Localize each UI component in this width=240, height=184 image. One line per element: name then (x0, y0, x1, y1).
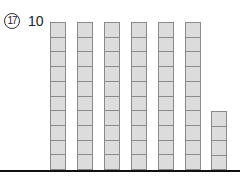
ten-rod (104, 22, 120, 170)
unit-cube (51, 141, 65, 156)
unit-cube (132, 155, 146, 169)
unit-cube (159, 97, 173, 112)
unit-cube (212, 156, 226, 170)
unit-cube (78, 141, 92, 156)
unit-cube (212, 112, 226, 127)
unit-cube (132, 111, 146, 126)
unit-cube (186, 67, 200, 82)
unit-cube (186, 38, 200, 53)
unit-cube (212, 127, 226, 142)
unit-cube (78, 23, 92, 38)
unit-cube (51, 155, 65, 169)
unit-cube (105, 82, 119, 97)
ten-rod (131, 22, 147, 170)
unit-cube (132, 67, 146, 82)
unit-cube (132, 141, 146, 156)
unit-cube (159, 111, 173, 126)
unit-cube (159, 126, 173, 141)
unit-cube (51, 52, 65, 67)
question-number-badge: 17 (4, 13, 20, 29)
unit-cube (51, 23, 65, 38)
unit-cube (105, 23, 119, 38)
unit-cube (105, 126, 119, 141)
unit-cube (186, 126, 200, 141)
unit-cube (78, 52, 92, 67)
unit-cube (51, 38, 65, 53)
unit-cube (159, 67, 173, 82)
unit-cube (78, 155, 92, 169)
unit-cube (186, 97, 200, 112)
unit-cube (159, 82, 173, 97)
unit-cube (186, 52, 200, 67)
unit-cube (51, 82, 65, 97)
unit-cube (105, 111, 119, 126)
unit-cube (105, 52, 119, 67)
unit-cube (51, 97, 65, 112)
unit-cube (186, 82, 200, 97)
ones-stack (211, 111, 227, 170)
unit-cube (132, 23, 146, 38)
ten-label: 10 (28, 13, 44, 29)
unit-cube (186, 111, 200, 126)
unit-cube (132, 82, 146, 97)
unit-cube (78, 111, 92, 126)
unit-cube (105, 38, 119, 53)
unit-cube (186, 141, 200, 156)
unit-cube (159, 38, 173, 53)
unit-cube (78, 38, 92, 53)
baseline-rule (0, 170, 240, 172)
unit-cube (212, 141, 226, 156)
unit-cube (159, 52, 173, 67)
ten-rod (158, 22, 174, 170)
unit-cube (78, 97, 92, 112)
unit-cube (78, 126, 92, 141)
unit-cube (132, 38, 146, 53)
unit-cube (51, 67, 65, 82)
unit-cube (132, 126, 146, 141)
unit-cube (105, 67, 119, 82)
unit-cube (132, 52, 146, 67)
unit-cube (186, 23, 200, 38)
ten-rod (185, 22, 201, 170)
unit-cube (132, 97, 146, 112)
unit-cube (51, 126, 65, 141)
unit-cube (159, 23, 173, 38)
ten-rod (77, 22, 93, 170)
unit-cube (159, 141, 173, 156)
unit-cube (186, 155, 200, 169)
unit-cube (159, 155, 173, 169)
unit-cube (51, 111, 65, 126)
unit-cube (105, 155, 119, 169)
unit-cube (78, 67, 92, 82)
unit-cube (105, 141, 119, 156)
ten-rod (50, 22, 66, 170)
unit-cube (105, 97, 119, 112)
unit-cube (78, 82, 92, 97)
